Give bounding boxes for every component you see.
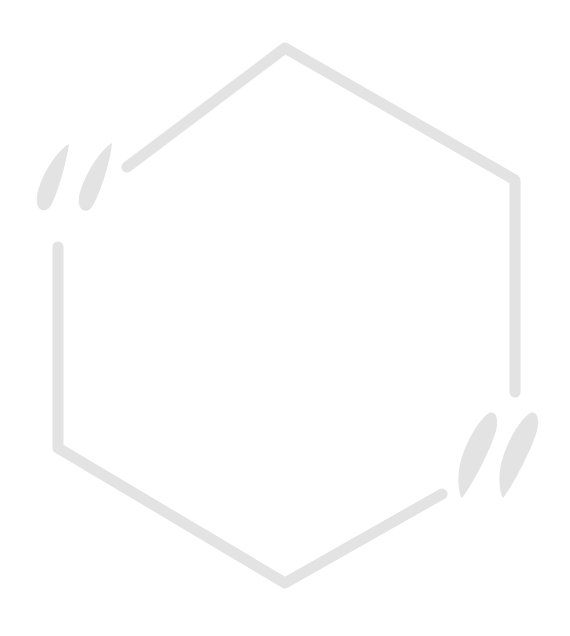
hexagon-top-left-edge — [127, 48, 515, 392]
hexagon-left-edge — [58, 247, 442, 583]
quote-frame-graphic — [0, 0, 570, 636]
hexagon-frame — [58, 48, 515, 583]
quote-close-icon — [458, 413, 538, 499]
quote-open-icon — [37, 143, 112, 211]
